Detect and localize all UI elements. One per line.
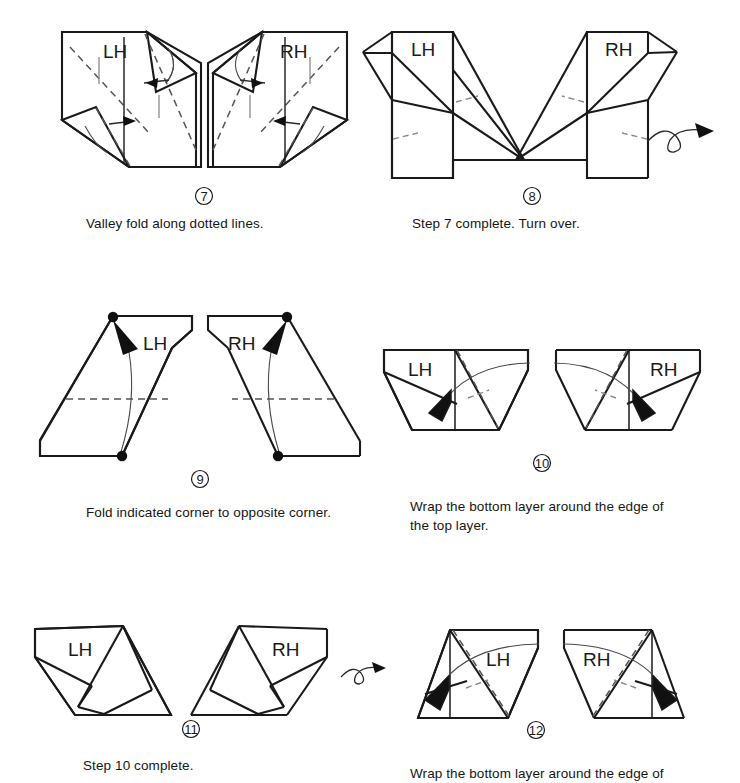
step-9-panel-lh: LH: [40, 312, 192, 461]
step-12-panel-lh: LH: [418, 630, 539, 718]
step-8-lh-label: LH: [411, 39, 435, 60]
step-9-lh-label: LH: [143, 333, 167, 354]
step-11-lh-label: LH: [68, 639, 92, 660]
step-9-rh-corner-dot-top: [282, 312, 292, 322]
step-8-panel-lh: LH: [363, 32, 524, 178]
step-9-lh-corner-dot-bottom: [117, 451, 127, 461]
step-7-diagram: LH RH: [62, 32, 347, 205]
step-7-lh-label: LH: [103, 41, 127, 62]
step-10-caption: Wrap the bottom layer around the edge of…: [410, 497, 710, 535]
step-10-lh-label: LH: [408, 359, 432, 380]
step-8-number: 8: [528, 189, 535, 204]
step-11-number-badge: 11: [183, 721, 200, 738]
step-12-caption: Wrap the bottom layer around the edge of: [410, 764, 720, 783]
step-12-panel-rh: RH: [563, 630, 684, 718]
step-8-rh-label: RH: [605, 39, 632, 60]
step-12-lh-label: LH: [486, 649, 510, 670]
step-11-diagram: LH RH 11: [35, 626, 386, 738]
step-10-number: 10: [535, 456, 549, 471]
step-12-diagram: LH RH 12: [418, 630, 684, 739]
step-10-rh-label: RH: [650, 359, 677, 380]
step-8-panel-rh: RH: [516, 32, 677, 178]
step-12-rh-label: RH: [583, 649, 610, 670]
step-12-number-badge: 12: [528, 722, 545, 739]
step-9-lh-corner-dot-top: [108, 312, 118, 322]
step-9-number-badge: 9: [192, 471, 209, 488]
step-8-caption: Step 7 complete. Turn over.: [412, 214, 580, 233]
step-8-number-badge: 8: [524, 188, 541, 205]
step-11-number: 11: [184, 722, 198, 737]
step-10-panel-rh: RH: [554, 350, 700, 430]
step-11-panel-rh: RH: [191, 626, 327, 715]
step-12-number: 12: [529, 723, 543, 738]
step-7-number-badge: 7: [196, 188, 213, 205]
step-10-diagram: LH RH 10: [384, 350, 700, 472]
step-9-number: 9: [196, 472, 203, 487]
step-7-rh-label: RH: [280, 41, 307, 62]
step-9-panel-rh: RH: [208, 312, 360, 461]
step-11-turn-over-icon: [341, 662, 386, 684]
step-10-number-badge: 10: [534, 455, 551, 472]
step-11-panel-lh: LH: [35, 626, 171, 715]
step-7-number: 7: [200, 189, 207, 204]
step-11-rh-label: RH: [272, 639, 299, 660]
step-7-panel-lh: LH: [62, 32, 201, 167]
step-8-turn-over-icon: [648, 123, 714, 152]
step-7-panel-rh: RH: [208, 32, 347, 167]
step-7-caption: Valley fold along dotted lines.: [86, 214, 264, 233]
step-10-panel-lh: LH: [384, 350, 530, 430]
step-9-caption: Fold indicated corner to opposite corner…: [86, 503, 331, 522]
step-9-rh-label: RH: [228, 333, 255, 354]
step-8-diagram: LH RH: [363, 32, 714, 205]
step-9-diagram: LH RH 9: [40, 312, 360, 488]
step-9-rh-corner-dot-bottom: [273, 451, 283, 461]
step-11-caption: Step 10 complete.: [83, 756, 194, 775]
